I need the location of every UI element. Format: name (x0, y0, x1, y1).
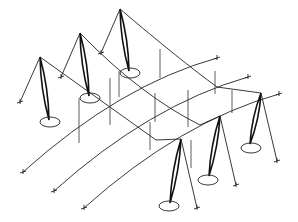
valley-cable (84, 94, 279, 208)
backstay (101, 9, 120, 53)
mast-spindle (250, 93, 261, 144)
mast-F (241, 93, 280, 163)
valley-cables (20, 55, 282, 210)
masts (17, 9, 280, 211)
backstay (20, 57, 40, 102)
mast-base-ring (198, 175, 218, 185)
ridge-cables (40, 9, 261, 140)
cable-net-diagram (0, 0, 298, 222)
ridge-cable (80, 33, 220, 125)
backstay (61, 33, 80, 77)
mast-B (58, 33, 100, 103)
ridge-cable (120, 9, 261, 93)
mast-spindle (170, 139, 181, 203)
mast-E (198, 116, 239, 187)
mast-base-ring (40, 117, 60, 127)
mast-C (98, 9, 140, 78)
mast-spindle (40, 57, 49, 120)
mast-D (159, 139, 200, 211)
mast-A (17, 57, 60, 127)
backstay (261, 93, 277, 161)
mast-spindle (120, 9, 129, 71)
mast-base-ring (241, 143, 261, 153)
backstay (220, 116, 236, 185)
mast-base-ring (159, 201, 179, 211)
backstay (181, 139, 197, 208)
mast-spindle (209, 116, 220, 176)
hanger-cables (79, 49, 232, 168)
